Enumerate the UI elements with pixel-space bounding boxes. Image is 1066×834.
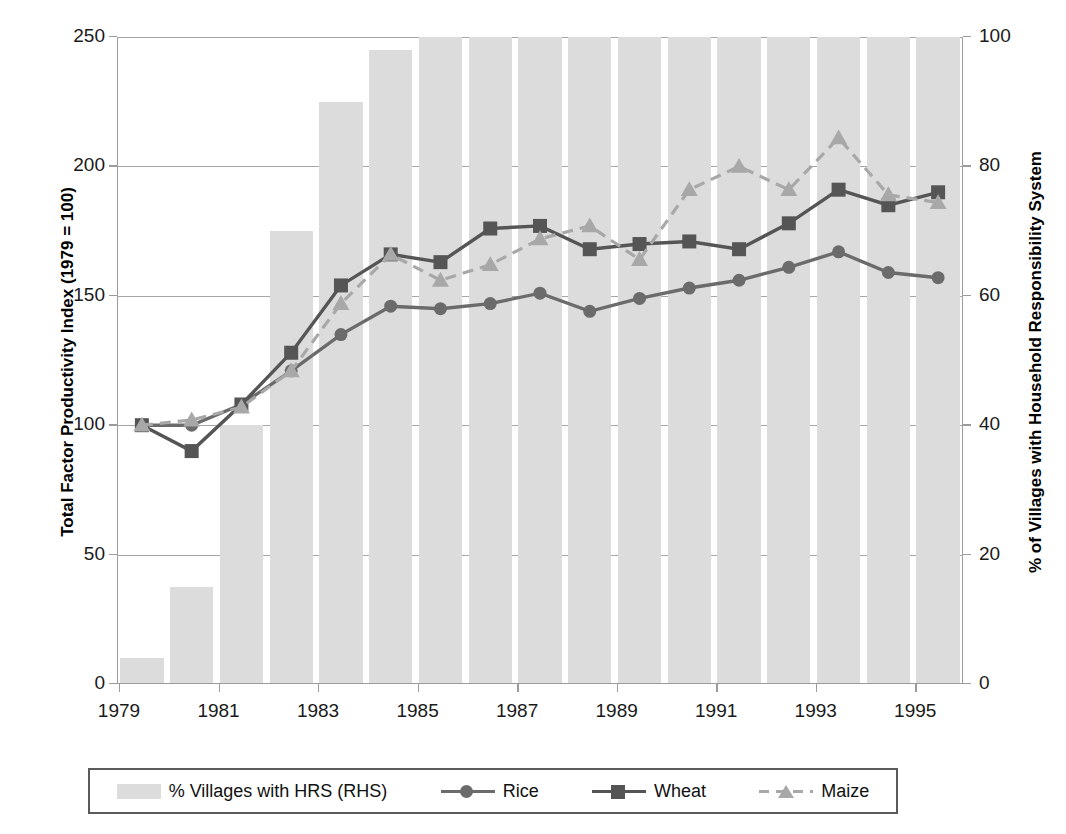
plot-area xyxy=(117,37,963,684)
y-axis-left-tickmark xyxy=(109,36,117,37)
y-axis-left-tick-label: 50 xyxy=(45,543,105,565)
data-point xyxy=(334,328,347,341)
y-axis-right-tickmark xyxy=(963,554,971,555)
series-line-rice xyxy=(142,252,938,425)
x-axis-tick-label: 1993 xyxy=(776,700,856,722)
y-axis-left-tick-label: 100 xyxy=(45,413,105,435)
legend-label: Wheat xyxy=(654,781,706,802)
legend-item[interactable]: % Villages with HRS (RHS) xyxy=(117,781,388,802)
data-point xyxy=(732,242,746,256)
x-axis-tickmark xyxy=(119,684,120,692)
y-axis-right-tick-label: 40 xyxy=(979,413,1039,435)
x-axis-tickmark xyxy=(318,684,319,692)
legend-bar-swatch xyxy=(117,784,161,799)
x-axis-tick-label: 1981 xyxy=(179,700,259,722)
data-point xyxy=(534,287,547,300)
y-axis-right-tickmark xyxy=(963,36,971,37)
y-axis-left-title: Total Factor Productivity Index (1979 = … xyxy=(58,32,78,692)
chart-container: Total Factor Productivity Index (1979 = … xyxy=(0,0,1066,834)
legend-marker-icon xyxy=(778,785,794,798)
legend-marker-icon xyxy=(460,785,473,798)
x-axis-tick-label: 1985 xyxy=(378,700,458,722)
x-axis-tickmark xyxy=(716,684,717,692)
y-axis-right-tickmark xyxy=(963,295,971,296)
legend-item[interactable]: Wheat xyxy=(592,781,706,802)
data-point xyxy=(830,129,847,144)
data-point xyxy=(384,300,397,313)
y-axis-right-tick-label: 80 xyxy=(979,154,1039,176)
y-axis-left-tickmark xyxy=(109,683,117,684)
data-point xyxy=(731,158,748,173)
x-axis-tickmark xyxy=(816,684,817,692)
x-axis-tickmark xyxy=(418,684,419,692)
legend-item[interactable]: Maize xyxy=(759,781,869,802)
chart-legend: % Villages with HRS (RHS)RiceWheatMaize xyxy=(88,768,898,814)
data-point xyxy=(782,261,795,274)
x-axis-tickmark xyxy=(517,684,518,692)
legend-label: % Villages with HRS (RHS) xyxy=(169,781,388,802)
legend-line-swatch xyxy=(441,783,495,799)
y-axis-left-tick-label: 200 xyxy=(45,154,105,176)
data-point xyxy=(483,222,497,236)
data-point xyxy=(185,444,199,458)
x-axis-tickmark xyxy=(915,684,916,692)
data-point xyxy=(633,237,647,251)
y-axis-right-tickmark xyxy=(963,165,971,166)
data-point xyxy=(581,217,598,232)
x-axis-tick-label: 1995 xyxy=(875,700,955,722)
y-axis-left-tick-label: 150 xyxy=(45,284,105,306)
data-point xyxy=(484,297,497,310)
legend-item[interactable]: Rice xyxy=(441,781,539,802)
data-point xyxy=(683,282,696,295)
legend-line-swatch xyxy=(759,783,813,799)
y-axis-right-tickmark xyxy=(963,683,971,684)
data-point xyxy=(434,302,447,315)
data-point xyxy=(583,305,596,318)
x-axis-tick-label: 1979 xyxy=(79,700,159,722)
y-axis-right-title: % of Villages with Household Responsibil… xyxy=(1026,32,1046,692)
y-axis-right-tick-label: 20 xyxy=(979,543,1039,565)
y-axis-left-tick-label: 250 xyxy=(45,25,105,47)
y-axis-right-tick-label: 0 xyxy=(979,672,1039,694)
x-axis-tick-label: 1987 xyxy=(477,700,557,722)
data-point xyxy=(882,266,895,279)
x-axis-tick-label: 1991 xyxy=(676,700,756,722)
y-axis-left-tickmark xyxy=(109,295,117,296)
y-axis-right-tickmark xyxy=(963,424,971,425)
x-axis-tickmark xyxy=(617,684,618,692)
y-axis-left-tickmark xyxy=(109,554,117,555)
data-point xyxy=(334,278,348,292)
data-point xyxy=(633,292,646,305)
x-axis-tick-label: 1989 xyxy=(577,700,657,722)
x-axis-tickmark xyxy=(219,684,220,692)
legend-line-swatch xyxy=(592,783,646,799)
data-point xyxy=(682,234,696,248)
data-point xyxy=(733,274,746,287)
data-point xyxy=(433,255,447,269)
y-axis-right-tick-label: 100 xyxy=(979,25,1039,47)
data-point xyxy=(832,245,845,258)
y-axis-right-tick-label: 60 xyxy=(979,284,1039,306)
data-point xyxy=(482,256,499,271)
x-axis-baseline xyxy=(117,683,963,684)
data-point xyxy=(832,183,846,197)
y-axis-left-tickmark xyxy=(109,424,117,425)
legend-label: Maize xyxy=(821,781,869,802)
x-axis-tick-label: 1983 xyxy=(278,700,358,722)
legend-label: Rice xyxy=(503,781,539,802)
y-axis-left-tickmark xyxy=(109,165,117,166)
line-series xyxy=(117,37,963,684)
data-point xyxy=(284,346,298,360)
legend-marker-icon xyxy=(611,785,625,799)
data-point xyxy=(782,216,796,230)
data-point xyxy=(932,271,945,284)
y-axis-left-tick-label: 0 xyxy=(45,672,105,694)
data-point xyxy=(583,242,597,256)
